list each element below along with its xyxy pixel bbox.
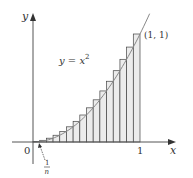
width-label-numerator: 1 <box>45 159 49 167</box>
riemann-bar <box>127 47 134 142</box>
riemann-bar <box>87 108 94 142</box>
riemann-bar <box>133 34 140 142</box>
curve-label-base: y = x <box>58 55 85 66</box>
riemann-bar <box>80 115 87 142</box>
curve-label-exponent: 2 <box>85 53 89 61</box>
width-pointer-arrow-icon <box>38 143 42 148</box>
y-axis-label: y <box>21 10 29 23</box>
point-label: (1, 1) <box>144 30 168 40</box>
riemann-rectangles <box>33 34 140 142</box>
riemann-bar <box>113 71 120 142</box>
x-tick-label-one: 1 <box>137 145 143 156</box>
y-axis-arrow-icon <box>30 13 36 21</box>
curve-label: y = x2 <box>58 53 90 66</box>
riemann-bar <box>120 59 127 142</box>
width-pointer-line <box>40 146 45 160</box>
riemann-sum-chart: y x 0 1 (1, 1) y = x2 1 n <box>0 0 193 178</box>
origin-label: 0 <box>24 145 30 156</box>
width-label-denominator: n <box>45 168 50 176</box>
x-axis-label: x <box>170 144 177 157</box>
